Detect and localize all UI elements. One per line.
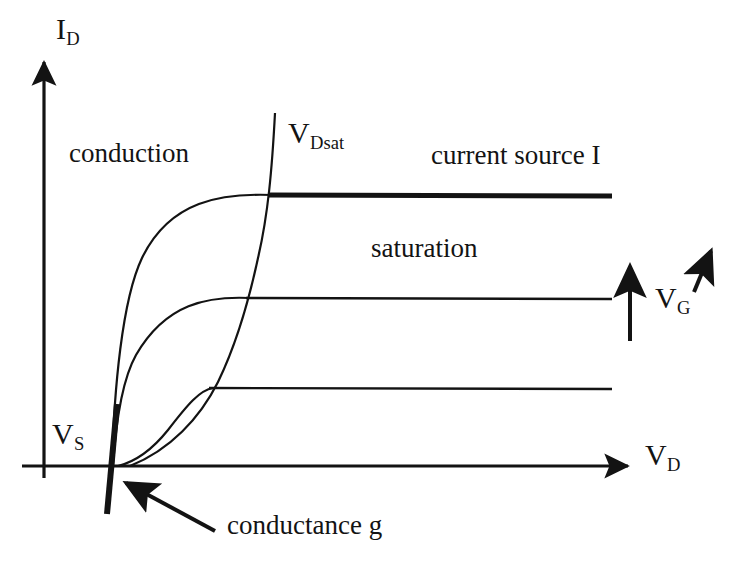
conduction-region-label: conduction — [69, 140, 189, 167]
conductance-label: conductance g — [227, 512, 382, 539]
v-dsat-label: VDsat — [288, 118, 344, 148]
current-source-label: current source I — [431, 142, 600, 169]
curve-group — [107, 113, 612, 514]
curve-2-mid-vg — [113, 298, 250, 466]
conductance-slope-line — [107, 404, 117, 514]
curve-1-highest-vg — [112, 195, 273, 466]
x-axis-label-sub: D — [667, 454, 680, 475]
v-dsat-label-sub: Dsat — [310, 132, 344, 153]
y-axis-label: ID — [56, 14, 79, 44]
v-s-label-main: V — [52, 417, 74, 450]
saturation-region-label: saturation — [371, 235, 477, 262]
v-dsat-label-main: V — [288, 116, 310, 149]
diagram-svg — [0, 0, 739, 564]
x-axis-label-main: V — [645, 438, 667, 471]
y-axis-label-sub: D — [66, 28, 79, 49]
v-s-label-sub: S — [74, 433, 84, 454]
vg-diagonal-arrow — [694, 251, 711, 292]
v-s-label: VS — [52, 419, 84, 449]
curve-1-saturation-line — [268, 195, 612, 196]
curve-3-saturation-line — [209, 388, 612, 389]
y-axis-label-main: I — [56, 12, 66, 45]
x-axis-label: VD — [645, 440, 680, 470]
v-g-label: VG — [655, 283, 690, 313]
curve-3-lowest-vg — [118, 388, 213, 466]
figure-canvas: ID VD VDsat VS VG conduction current sou… — [0, 0, 739, 564]
v-g-label-main: V — [655, 281, 677, 314]
v-g-label-sub: G — [677, 297, 690, 318]
curve-2-saturation-line — [246, 298, 612, 299]
conductance-pointer-arrow — [126, 483, 215, 531]
